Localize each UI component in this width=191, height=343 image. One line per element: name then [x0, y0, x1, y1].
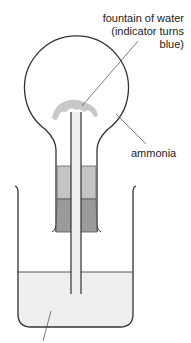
- glass-tube: [71, 112, 81, 294]
- label-ammonia: ammonia: [131, 147, 176, 160]
- label-fountain-of-water: fountain of water (indicator turns blue): [74, 12, 184, 51]
- fountain-experiment-diagram: [0, 0, 191, 343]
- label-fountain-line1: fountain of water: [74, 12, 184, 25]
- label-fountain-line3: blue): [74, 38, 184, 51]
- pointer-ammonia: [116, 114, 146, 144]
- label-fountain-line2: (indicator turns: [74, 25, 184, 38]
